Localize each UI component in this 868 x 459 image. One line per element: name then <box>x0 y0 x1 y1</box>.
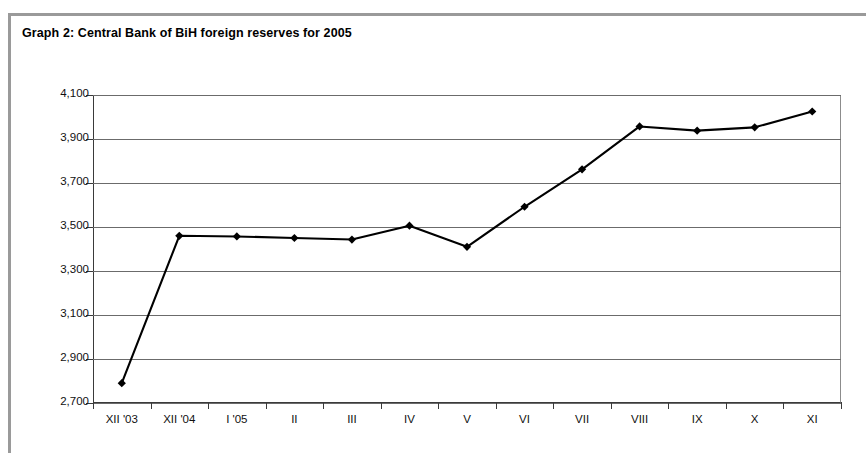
data-point-marker <box>118 379 126 387</box>
data-point-marker <box>808 107 816 115</box>
data-point-marker <box>405 222 413 230</box>
x-axis-tick <box>841 402 842 409</box>
y-axis-tick-label: 3,500 <box>19 219 89 231</box>
data-point-marker <box>290 234 298 242</box>
y-axis-tick-label: 2,700 <box>19 395 89 407</box>
y-axis-tick-label: 3,100 <box>19 307 89 319</box>
y-axis-tick-label: 4,100 <box>19 87 89 99</box>
x-axis-tick <box>151 402 152 409</box>
x-axis-tick <box>323 402 324 409</box>
data-point-marker <box>751 123 759 131</box>
y-axis-tick-label: 2,900 <box>19 351 89 363</box>
x-axis-tick <box>668 402 669 409</box>
figure-container: Graph 2: Central Bank of BiH foreign res… <box>0 0 868 459</box>
gridline <box>93 403 841 404</box>
x-axis-tick <box>381 402 382 409</box>
data-point-marker <box>693 127 701 135</box>
x-axis-tick <box>783 402 784 409</box>
x-axis-tick <box>208 402 209 409</box>
x-axis-tick <box>438 402 439 409</box>
x-axis-tick <box>496 402 497 409</box>
figure-frame-top-edge <box>8 13 866 16</box>
plot-area: 2,7002,9003,1003,3003,5003,7003,9004,100… <box>93 95 841 403</box>
y-axis-tick-label: 3,900 <box>19 131 89 143</box>
data-point-marker <box>233 232 241 240</box>
x-axis-tick <box>726 402 727 409</box>
figure-frame-left-edge <box>8 13 11 453</box>
chart-title: Graph 2: Central Bank of BiH foreign res… <box>22 26 352 40</box>
x-axis-tick-label: XI <box>777 413 847 425</box>
data-point-marker <box>348 235 356 243</box>
x-axis-tick <box>266 402 267 409</box>
y-axis-tick-label: 3,700 <box>19 175 89 187</box>
x-axis-tick <box>553 402 554 409</box>
x-axis-tick <box>93 402 94 409</box>
data-point-marker <box>175 232 183 240</box>
data-series-reserves <box>93 95 841 403</box>
y-axis-tick-label: 3,300 <box>19 263 89 275</box>
x-axis-tick <box>611 402 612 409</box>
